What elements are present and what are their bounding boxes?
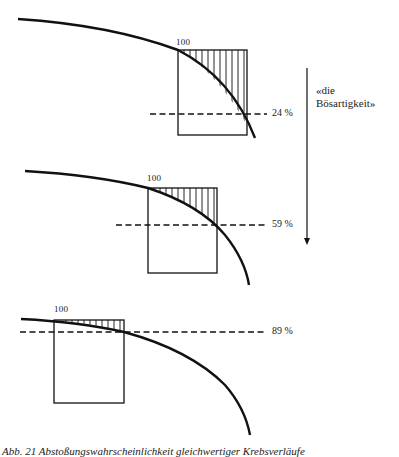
malignancy-label: «die Bösartigkeit» (316, 84, 375, 110)
panel-2-start-label: 100 (147, 173, 161, 183)
panel-3 (20, 319, 267, 435)
hatch-area (66, 320, 120, 335)
hatch-area (184, 50, 244, 135)
panel-2-percent-label: 59 % (272, 218, 293, 229)
panel-1-start-label: 100 (176, 37, 190, 47)
arrow-head-icon (304, 238, 310, 245)
malignancy-arrow (304, 68, 310, 245)
panel-3-start-label: 100 (54, 304, 68, 314)
reference-box (148, 188, 217, 273)
malignancy-label-line1: «die (316, 84, 375, 97)
curve (21, 319, 250, 435)
hatch-area (154, 188, 214, 272)
panel-1 (18, 19, 267, 138)
panel-1-percent-label: 24 % (272, 107, 293, 118)
panel-2 (25, 171, 267, 285)
curve (18, 19, 255, 138)
reference-box (178, 50, 247, 135)
panel-3-percent-label: 89 % (272, 325, 293, 336)
figure-caption: Abb. 21 Abstoßungswahrscheinlichkeit gle… (2, 445, 305, 457)
malignancy-label-line2: Bösartigkeit» (316, 97, 375, 110)
